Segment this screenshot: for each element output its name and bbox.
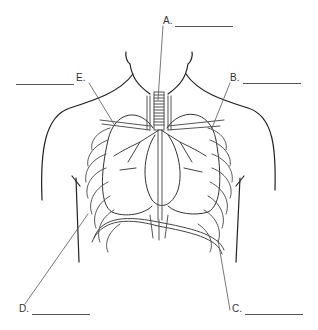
answer-blank-a[interactable] bbox=[175, 26, 233, 27]
label-b: B. bbox=[230, 73, 239, 83]
answer-blank-c[interactable] bbox=[245, 314, 303, 315]
leader-lines bbox=[25, 26, 230, 310]
answer-blank-d[interactable] bbox=[32, 314, 90, 315]
heart bbox=[145, 135, 180, 205]
thorax-illustration bbox=[0, 0, 318, 330]
label-c: C. bbox=[232, 304, 242, 314]
answer-blank-e[interactable] bbox=[16, 84, 74, 85]
label-e: E. bbox=[76, 73, 85, 83]
label-d: D. bbox=[19, 304, 29, 314]
respiratory-diagram: A. B. C. D. E. bbox=[0, 0, 318, 330]
bronchi bbox=[114, 130, 206, 172]
ribcage bbox=[86, 128, 233, 252]
lungs bbox=[102, 114, 219, 215]
answer-blank-b[interactable] bbox=[243, 83, 301, 84]
label-a: A. bbox=[163, 16, 172, 26]
